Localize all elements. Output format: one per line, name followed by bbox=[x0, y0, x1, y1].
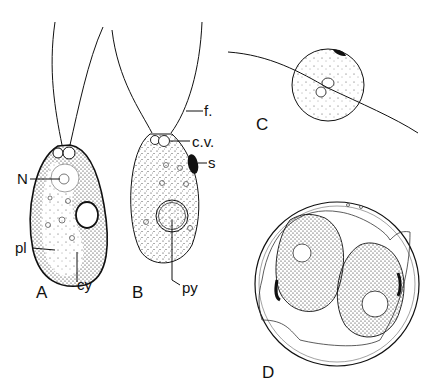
panel-label-b: B bbox=[132, 284, 143, 301]
panel-label-d: D bbox=[262, 364, 274, 381]
label-pyrenoid: py bbox=[182, 280, 198, 295]
panel-label-a: A bbox=[36, 284, 47, 301]
panel-label-c: C bbox=[256, 116, 268, 133]
label-stigma: s bbox=[208, 155, 216, 170]
label-cytoplasm: cy bbox=[77, 277, 92, 292]
label-contractile-vacuole: c.v. bbox=[192, 134, 214, 149]
cell-a bbox=[30, 22, 107, 286]
label-flagellum: f. bbox=[204, 103, 212, 118]
label-plastid: pl bbox=[15, 240, 27, 255]
label-nucleus: N bbox=[17, 171, 28, 186]
cell-d-cyst bbox=[255, 202, 419, 366]
cell-diagram bbox=[0, 0, 432, 385]
cell-b bbox=[112, 22, 207, 285]
